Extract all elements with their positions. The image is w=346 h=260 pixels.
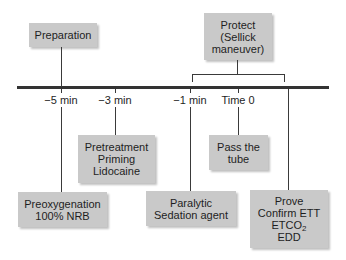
prove-etco-subscript: 2 <box>302 224 306 233</box>
tick-minus5-top <box>61 89 62 93</box>
prove-line1: Prove <box>275 195 304 207</box>
pass-tube-box: Pass the tube <box>209 135 268 170</box>
time0-connector <box>238 107 239 135</box>
paralytic-box: Paralytic Sedation agent <box>146 191 236 226</box>
preoxygenation-line1: Preoxygenation <box>24 198 100 210</box>
pretreatment-line3: Lidocaine <box>93 165 140 177</box>
pretreatment-line1: Pretreatment <box>85 141 149 153</box>
tick-minus1-top <box>190 89 191 93</box>
tick-label-minus5: −5 min <box>43 94 78 106</box>
paralytic-line2: Sedation agent <box>154 209 228 221</box>
paralytic-line1: Paralytic <box>170 197 212 209</box>
pass-tube-line2: tube <box>228 153 249 165</box>
preparation-connector <box>61 47 62 87</box>
timeline-axis <box>17 86 329 89</box>
minus5-connector <box>61 107 62 192</box>
tick-label-time0: Time 0 <box>220 94 255 106</box>
tick-label-minus3: −3 min <box>97 94 132 106</box>
minus1-connector <box>190 107 191 191</box>
tick-minus3-top <box>115 89 116 93</box>
preparation-box: Preparation <box>29 23 97 47</box>
protect-bracket-left <box>192 74 193 82</box>
protect-connector <box>237 60 238 74</box>
pretreatment-line2: Priming <box>98 153 135 165</box>
prove-line4: EDD <box>277 231 300 243</box>
protect-label-line1: Protect <box>221 19 256 31</box>
prove-connector <box>288 89 289 190</box>
prove-box: Prove Confirm ETT ETCO2 EDD <box>250 190 328 248</box>
preoxygenation-box: Preoxygenation 100% NRB <box>18 192 107 227</box>
protect-bracket-top <box>192 74 285 75</box>
minus3-connector <box>115 107 116 135</box>
prove-line2: Confirm ETT <box>258 207 320 219</box>
protect-label-line2: (Sellick <box>220 31 255 43</box>
protect-label-line3: maneuver) <box>212 43 265 55</box>
tick-time0-top <box>238 89 239 93</box>
prove-etco: ETCO <box>271 219 302 231</box>
timeline-diagram: Preparation Protect (Sellick maneuver) −… <box>0 0 346 260</box>
preoxygenation-line2: 100% NRB <box>35 210 89 222</box>
prove-line3: ETCO2 <box>271 219 306 231</box>
protect-bracket-right <box>284 74 285 82</box>
protect-box: Protect (Sellick maneuver) <box>204 13 272 60</box>
tick-label-minus1: −1 min <box>172 94 207 106</box>
preparation-label: Preparation <box>35 29 92 41</box>
pretreatment-box: Pretreatment Priming Lidocaine <box>78 135 155 183</box>
pass-tube-line1: Pass the <box>217 141 260 153</box>
